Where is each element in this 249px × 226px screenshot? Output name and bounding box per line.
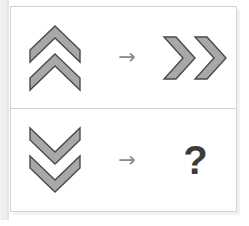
page-left-strip-shadow: [6, 0, 9, 220]
right-arrow-icon: →: [118, 150, 136, 171]
row-1-right-cell: [155, 7, 236, 108]
right-arrow-icon: →: [118, 47, 136, 68]
double-chevron-up-icon: [28, 24, 82, 92]
question-mark-icon: ?: [183, 140, 207, 180]
table-row: →: [11, 7, 236, 109]
puzzle-table: →: [10, 6, 237, 212]
double-chevron-right-icon: [162, 35, 230, 81]
row-1-operator-cell: →: [99, 7, 155, 108]
double-chevron-down-icon: [28, 126, 82, 194]
row-2-operator-cell: →: [99, 109, 155, 211]
row-1-left-cell: [11, 7, 99, 108]
row-2-right-cell: ?: [155, 109, 236, 211]
table-row: → ?: [11, 109, 236, 211]
row-2-left-cell: [11, 109, 99, 211]
